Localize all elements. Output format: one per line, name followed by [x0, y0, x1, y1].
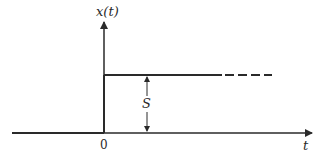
diagram-graphics — [0, 0, 319, 155]
step-function-diagram: x(t) t 0 S — [0, 0, 319, 155]
x-axis-label: t — [303, 139, 308, 152]
amplitude-label: S — [141, 97, 152, 110]
y-axis-label: x(t) — [96, 5, 119, 18]
origin-label: 0 — [100, 139, 108, 151]
